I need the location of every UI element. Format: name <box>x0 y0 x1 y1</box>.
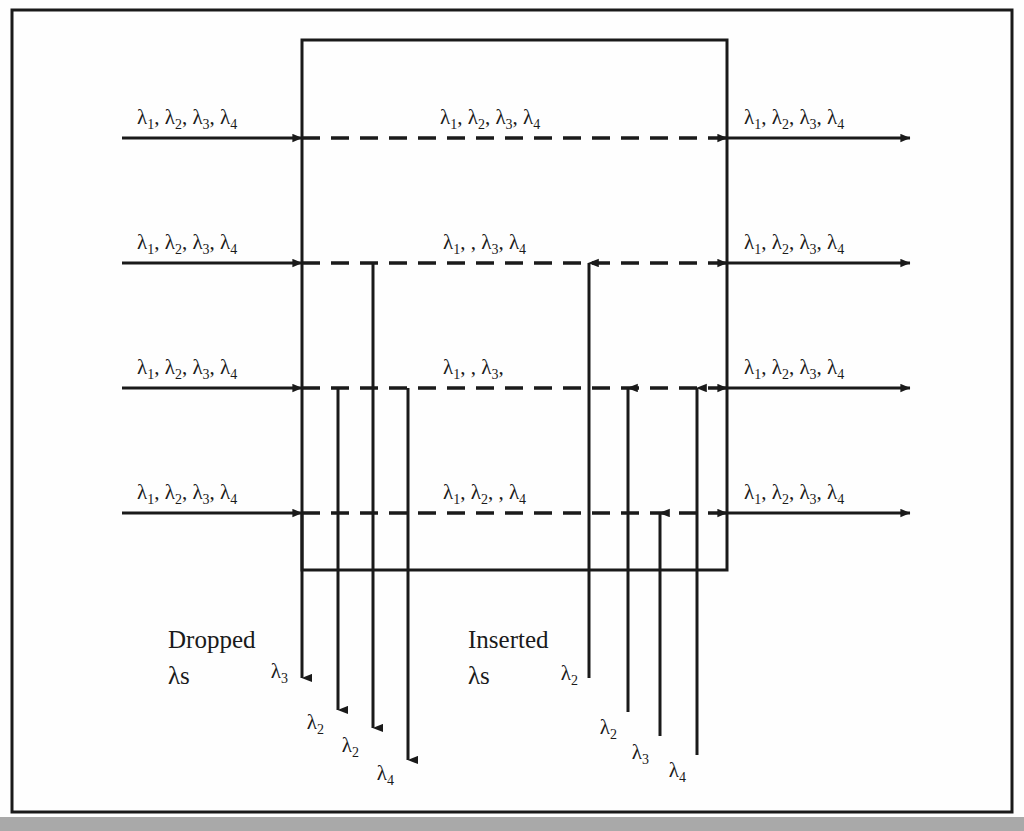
inserted-caption-line1: Inserted <box>468 626 549 653</box>
fiber-1-middle-label: λ1, λ2, λ3, λ4 <box>440 105 540 132</box>
inserted-caption: Inserted λs <box>468 626 549 689</box>
fiber-1-output-label: λ1, λ2, λ3, λ4 <box>744 105 844 132</box>
insert-4-label: λ4 <box>669 758 686 785</box>
fiber-4-middle-label: λ1, λ2, , λ4 <box>443 480 526 507</box>
drop-1-label: λ3 <box>271 659 288 686</box>
dropped-caption-line2: λs <box>168 662 190 689</box>
fiber-4-output-label: λ1, λ2, λ3, λ4 <box>744 480 844 507</box>
inserted-lines-group <box>589 263 697 755</box>
fiber-2-middle-label: λ1, , λ3, λ4 <box>443 230 526 257</box>
bottom-gray-strip <box>0 817 1024 831</box>
fiber-2-labels: λ1, λ2, λ3, λ4 λ1, , λ3, λ4 λ1, λ2, λ3, … <box>137 230 844 257</box>
fiber-lines-group <box>122 138 910 513</box>
drop-4-label: λ4 <box>377 761 394 788</box>
fiber-4-labels: λ1, λ2, λ3, λ4 λ1, λ2, , λ4 λ1, λ2, λ3, … <box>137 480 844 507</box>
inserted-lambda-labels: λ2 λ2 λ3 λ4 <box>561 661 686 785</box>
fiber-3-output-label: λ1, λ2, λ3, λ4 <box>744 355 844 382</box>
fiber-3-input-label: λ1, λ2, λ3, λ4 <box>137 355 237 382</box>
fiber-4-input-label: λ1, λ2, λ3, λ4 <box>137 480 237 507</box>
fiber-2-input-label: λ1, λ2, λ3, λ4 <box>137 230 237 257</box>
dropped-caption-line1: Dropped <box>168 626 256 653</box>
insert-2-label: λ2 <box>600 715 617 742</box>
dropped-caption: Dropped λs <box>168 626 256 689</box>
fiber-1-labels: λ1, λ2, λ3, λ4 λ1, λ2, λ3, λ4 λ1, λ2, λ3… <box>137 105 844 132</box>
inserted-caption-line2: λs <box>468 662 490 689</box>
insert-3-label: λ3 <box>632 740 649 767</box>
insert-1-label: λ2 <box>561 661 578 688</box>
fiber-3-labels: λ1, λ2, λ3, λ4 λ1, , λ3, λ1, λ2, λ3, λ4 <box>137 355 844 382</box>
fiber-3-middle-label: λ1, , λ3, <box>443 355 504 382</box>
dropped-lambda-labels: λ3 λ2 λ2 λ4 <box>271 659 394 788</box>
drop-3-label: λ2 <box>342 733 359 760</box>
fiber-1-input-label: λ1, λ2, λ3, λ4 <box>137 105 237 132</box>
figure-canvas: λ1, λ2, λ3, λ4 λ1, λ2, λ3, λ4 λ1, λ2, λ3… <box>0 0 1024 831</box>
oadm-wavelength-diagram: λ1, λ2, λ3, λ4 λ1, λ2, λ3, λ4 λ1, λ2, λ3… <box>0 0 1024 831</box>
drop-2-label: λ2 <box>307 710 324 737</box>
fiber-2-output-label: λ1, λ2, λ3, λ4 <box>744 230 844 257</box>
